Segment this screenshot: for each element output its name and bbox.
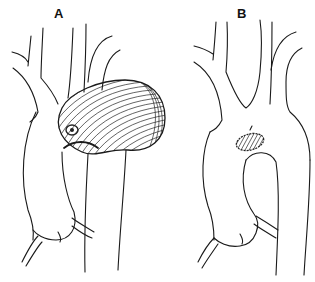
panel-a-drawing xyxy=(12,24,192,272)
aorta-drawings xyxy=(0,0,315,282)
panel-b-drawing xyxy=(194,20,310,275)
medical-illustration: A B xyxy=(0,0,315,282)
aneurysm-hatching xyxy=(24,62,192,212)
